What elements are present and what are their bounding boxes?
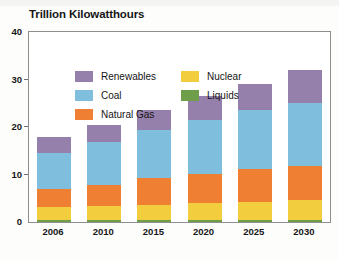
bar-2015 xyxy=(137,110,171,222)
legend-column-left: RenewablesCoalNatural Gas xyxy=(75,68,156,125)
plot-area: RenewablesCoalNatural Gas NuclearLiquids xyxy=(28,31,331,223)
x-axis: 200620102015202020252030 xyxy=(28,226,331,244)
legend-swatch-icon xyxy=(75,71,93,82)
bar-2020 xyxy=(188,96,222,222)
legend-item-renewables: Renewables xyxy=(75,68,156,84)
y-tick-label: 40 xyxy=(11,26,22,37)
bar-segment-nuclear xyxy=(188,203,222,220)
bar-segment-nuclear xyxy=(37,207,71,220)
bar-segment-natural-gas xyxy=(137,178,171,205)
bar-segment-renewables xyxy=(87,125,121,143)
bar-segment-coal xyxy=(188,120,222,174)
scan-artifact-band xyxy=(0,0,339,6)
x-tick-label: 2025 xyxy=(243,226,264,237)
chart-figure: Trillion Kilowatthours 010203040 Renewab… xyxy=(0,0,339,260)
bar-segment-nuclear xyxy=(238,202,272,221)
legend-label: Coal xyxy=(101,90,122,101)
legend-label: Natural Gas xyxy=(101,109,154,120)
bar-segment-natural-gas xyxy=(188,174,222,203)
x-tick-label: 2006 xyxy=(43,226,64,237)
bar-segment-natural-gas xyxy=(288,166,322,201)
legend-label: Nuclear xyxy=(207,71,241,82)
legend-swatch-icon xyxy=(75,109,93,120)
legend-swatch-icon xyxy=(181,71,199,82)
legend-item-natural-gas: Natural Gas xyxy=(75,106,156,122)
legend-label: Liquids xyxy=(207,90,239,101)
bar-segment-natural-gas xyxy=(238,169,272,202)
bar-segment-liquids xyxy=(137,220,171,222)
bar-2030 xyxy=(288,70,322,222)
bar-segment-coal xyxy=(37,153,71,190)
legend-swatch-icon xyxy=(181,90,199,101)
bar-segment-liquids xyxy=(37,220,71,222)
bar-2010 xyxy=(87,125,121,222)
legend-label: Renewables xyxy=(101,71,156,82)
legend-item-liquids: Liquids xyxy=(181,87,241,103)
x-tick-label: 2015 xyxy=(143,226,164,237)
legend-item-nuclear: Nuclear xyxy=(181,68,241,84)
y-axis: 010203040 xyxy=(0,0,28,260)
bar-segment-natural-gas xyxy=(87,185,121,206)
bar-segment-natural-gas xyxy=(37,189,71,207)
bar-2025 xyxy=(238,84,272,222)
legend-item-coal: Coal xyxy=(75,87,156,103)
bar-segment-nuclear xyxy=(288,200,322,220)
x-tick-label: 2030 xyxy=(293,226,314,237)
y-tick-label: 20 xyxy=(11,121,22,132)
bar-segment-coal xyxy=(87,142,121,185)
x-tick-label: 2020 xyxy=(193,226,214,237)
bar-segment-nuclear xyxy=(87,206,121,220)
y-tick-label: 10 xyxy=(11,168,22,179)
bar-segment-renewables xyxy=(238,84,272,110)
x-tick-label: 2010 xyxy=(93,226,114,237)
bar-segment-nuclear xyxy=(137,205,171,220)
bar-segment-renewables xyxy=(288,70,322,103)
legend-column-right: NuclearLiquids xyxy=(181,68,241,106)
bar-segment-coal xyxy=(288,103,322,165)
bar-segment-liquids xyxy=(188,220,222,222)
bar-segment-liquids xyxy=(238,220,272,222)
bar-segment-liquids xyxy=(87,220,121,222)
y-tick-label: 0 xyxy=(17,216,22,227)
bar-2006 xyxy=(37,137,71,222)
chart-title: Trillion Kilowatthours xyxy=(29,8,144,20)
legend-swatch-icon xyxy=(75,90,93,101)
bar-segment-renewables xyxy=(37,137,71,153)
bar-segment-liquids xyxy=(288,220,322,222)
y-tick-label: 30 xyxy=(11,73,22,84)
bar-segment-coal xyxy=(137,130,171,178)
bars-layer xyxy=(29,32,330,222)
bar-segment-coal xyxy=(238,110,272,168)
